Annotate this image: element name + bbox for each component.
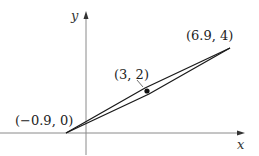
left-vertex-label: (−0.9, 0) xyxy=(15,113,73,128)
x-axis-arrow-icon xyxy=(237,131,245,136)
x-axis-label: x xyxy=(237,137,245,152)
right-vertex-label: (6.9, 4) xyxy=(186,28,233,43)
diagram-canvas: y x (−0.9, 0) (6.9, 4) (3, 2) xyxy=(0,0,259,156)
center-point-marker xyxy=(144,88,149,93)
x-axis xyxy=(0,131,245,136)
y-axis-arrow-icon xyxy=(84,11,89,19)
center-point-label: (3, 2) xyxy=(114,67,149,82)
y-axis-label: y xyxy=(70,8,79,23)
